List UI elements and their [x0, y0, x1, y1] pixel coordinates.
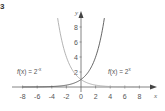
- y-axis-label: y: [74, 9, 79, 17]
- x-tick-label: -8: [19, 93, 25, 100]
- curve-2-to-minus-x: [58, 18, 140, 87]
- label-2-to-minus-x-exponent: -x: [37, 67, 41, 72]
- y-axis-arrow-icon: [79, 11, 84, 18]
- x-ticks: -8-6-4-202468: [19, 86, 141, 101]
- x-tick-label: 4: [108, 93, 112, 100]
- x-tick-label: 8: [137, 93, 141, 100]
- label-2-to-minus-x: f(x) = 2-x: [17, 67, 42, 76]
- y-tick-label: 4: [74, 54, 78, 61]
- y-tick-label: 8: [74, 24, 78, 31]
- label-2-to-x-base: (x) = 2: [110, 68, 129, 76]
- x-axis-arrow-icon: [150, 85, 157, 90]
- x-tick-label: -2: [63, 93, 69, 100]
- figure-number-label: 3: [0, 2, 5, 11]
- curve-2-to-x: [23, 18, 105, 87]
- axes: -8-6-4-202468 2468 x y: [12, 9, 158, 100]
- y-tick-label: 6: [74, 39, 78, 46]
- label-2-to-x: f(x) = 2x: [108, 67, 131, 76]
- x-axis-label: x: [153, 92, 158, 100]
- y-ticks: 2468: [74, 24, 81, 76]
- x-tick-label: 2: [94, 93, 98, 100]
- label-2-to-x-exponent: x: [128, 67, 131, 72]
- x-tick-label: -4: [49, 93, 55, 100]
- x-tick-label: 0: [79, 93, 83, 100]
- x-tick-label: 6: [123, 93, 127, 100]
- function-graph: 3 -8-6-4-202468 2468 x y f(x) = 2-x f(x)…: [0, 0, 165, 111]
- label-2-to-minus-x-base: (x) = 2: [19, 68, 38, 76]
- x-tick-label: -6: [34, 93, 40, 100]
